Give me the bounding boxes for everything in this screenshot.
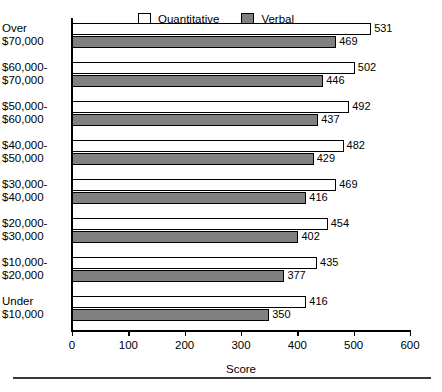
- category-label-line1: $60,000-: [2, 61, 64, 74]
- category-label-line1: $20,000-: [2, 217, 64, 230]
- bar-value-label: 437: [321, 112, 339, 127]
- category-label: $50,000-$60,000: [2, 100, 64, 126]
- bar-verbal: [72, 75, 323, 87]
- bar-value-label: 402: [301, 229, 319, 244]
- bar-verbal: [72, 192, 306, 204]
- category-label-line2: $10,000: [2, 308, 64, 321]
- bar-verbal: [72, 36, 336, 48]
- bar-verbal: [72, 114, 318, 126]
- bar-verbal: [72, 309, 269, 321]
- bar-value-label: 377: [287, 268, 305, 283]
- x-tick: [72, 330, 73, 336]
- category-label: $60,000-$70,000: [2, 61, 64, 87]
- bottom-divider: [13, 377, 431, 379]
- bar-value-label: 350: [272, 307, 290, 322]
- bar-value-label: 502: [358, 60, 376, 75]
- bar-quantitative: [72, 257, 317, 269]
- bar-quantitative: [72, 140, 344, 152]
- bar-quantitative: [72, 179, 336, 191]
- category-label-line2: $50,000: [2, 152, 64, 165]
- bar-chart-figure: Quantitative Verbal Over$70,000531469$60…: [0, 0, 442, 392]
- bar-verbal: [72, 231, 298, 243]
- bar-value-label: 531: [374, 21, 392, 36]
- plot-area: Over$70,000531469$60,000-$70,000502446$5…: [72, 18, 410, 330]
- x-tick-label: 500: [334, 338, 374, 352]
- category-label-line1: $30,000-: [2, 178, 64, 191]
- category-label: $40,000-$50,000: [2, 139, 64, 165]
- x-tick: [354, 330, 355, 336]
- bar-group: Over$70,000531469: [72, 18, 410, 57]
- bar-group: $50,000-$60,000492437: [72, 96, 410, 135]
- category-label: Under$10,000: [2, 295, 64, 321]
- x-tick-label: 0: [52, 338, 92, 352]
- category-label: Over$70,000: [2, 22, 64, 48]
- category-label-line1: $10,000-: [2, 256, 64, 269]
- category-label-line1: Over: [2, 22, 64, 35]
- x-tick-label: 100: [108, 338, 148, 352]
- bar-value-label: 429: [317, 151, 335, 166]
- x-tick: [185, 330, 186, 336]
- bar-verbal: [72, 153, 314, 165]
- bar-group: Under$10,000416350: [72, 291, 410, 330]
- bar-value-label: 482: [347, 138, 365, 153]
- category-label-line1: $40,000-: [2, 139, 64, 152]
- bar-value-label: 435: [320, 255, 338, 270]
- category-label-line2: $20,000: [2, 269, 64, 282]
- bar-value-label: 454: [331, 216, 349, 231]
- category-label-line1: Under: [2, 295, 64, 308]
- x-tick-label: 400: [277, 338, 317, 352]
- bar-verbal: [72, 270, 284, 282]
- x-axis-label: Score: [72, 363, 410, 375]
- bar-value-label: 469: [339, 34, 357, 49]
- x-tick: [241, 330, 242, 336]
- x-tick: [128, 330, 129, 336]
- bar-group: $10,000-$20,000435377: [72, 252, 410, 291]
- category-label: $10,000-$20,000: [2, 256, 64, 282]
- x-tick-label: 600: [390, 338, 430, 352]
- bar-quantitative: [72, 62, 355, 74]
- category-label-line2: $30,000: [2, 230, 64, 243]
- category-label-line2: $70,000: [2, 35, 64, 48]
- bar-value-label: 416: [309, 190, 327, 205]
- category-label-line2: $70,000: [2, 74, 64, 87]
- bar-quantitative: [72, 101, 349, 113]
- bar-value-label: 446: [326, 73, 344, 88]
- x-tick: [410, 330, 411, 336]
- bar-group: $60,000-$70,000502446: [72, 57, 410, 96]
- bar-group: $20,000-$30,000454402: [72, 213, 410, 252]
- category-label-line2: $60,000: [2, 113, 64, 126]
- category-label: $20,000-$30,000: [2, 217, 64, 243]
- category-label: $30,000-$40,000: [2, 178, 64, 204]
- x-tick-label: 200: [165, 338, 205, 352]
- category-label-line1: $50,000-: [2, 100, 64, 113]
- category-label-line2: $40,000: [2, 191, 64, 204]
- bar-value-label: 469: [339, 177, 357, 192]
- bar-value-label: 416: [309, 294, 327, 309]
- bar-group: $30,000-$40,000469416: [72, 174, 410, 213]
- bar-quantitative: [72, 218, 328, 230]
- bar-quantitative: [72, 23, 371, 35]
- bar-group: $40,000-$50,000482429: [72, 135, 410, 174]
- x-tick-label: 300: [221, 338, 261, 352]
- bar-value-label: 492: [352, 99, 370, 114]
- x-tick: [297, 330, 298, 336]
